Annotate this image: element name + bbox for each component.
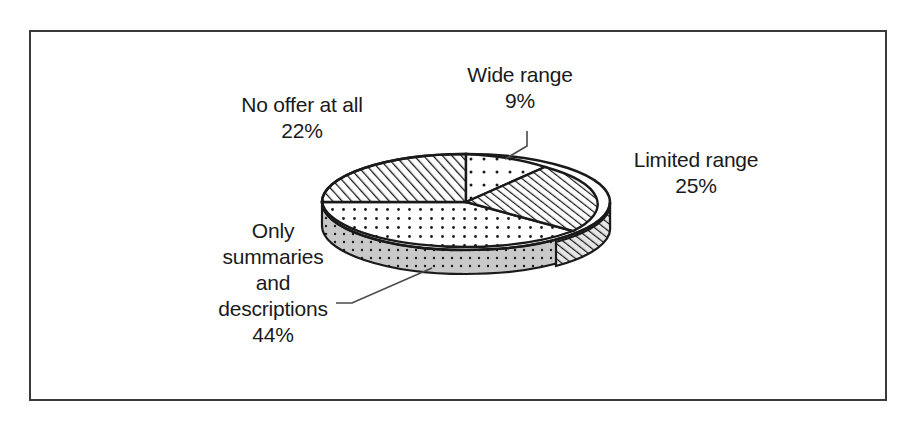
pie-chart-figure: Wide range 9% No offer at all 22% Limite… xyxy=(0,0,914,422)
pie-label-only-summaries: Only summaries and descriptions 44% xyxy=(178,218,368,348)
pie-label-wide-range: Wide range 9% xyxy=(420,62,620,114)
pie-label-no-offer-at-all: No offer at all 22% xyxy=(182,92,422,144)
pie-label-limited-range: Limited range 25% xyxy=(576,147,816,199)
